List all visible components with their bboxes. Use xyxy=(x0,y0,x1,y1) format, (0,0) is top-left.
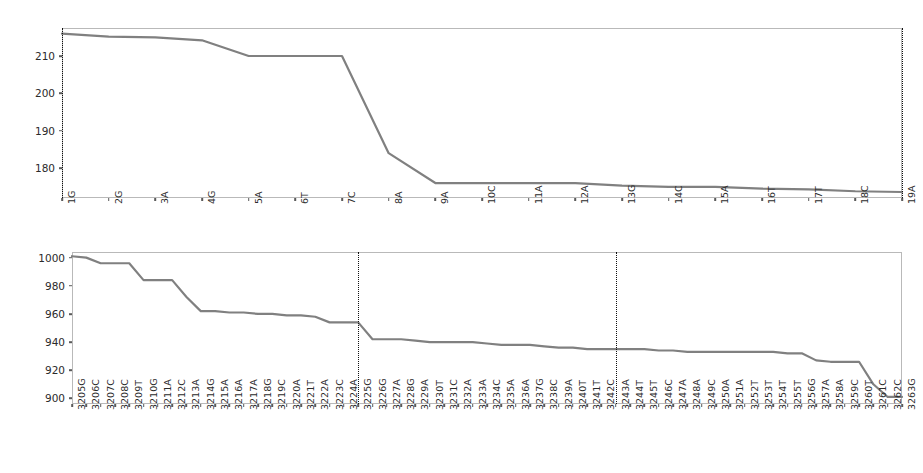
x-tick-mark xyxy=(715,198,717,201)
y-tick-mark xyxy=(69,398,72,400)
x-tick-mark xyxy=(128,404,130,407)
x-tick-label: 2G xyxy=(113,191,124,204)
x-tick-label: 3A xyxy=(159,191,170,204)
x-tick-mark xyxy=(343,404,345,407)
x-tick-mark xyxy=(501,404,503,407)
x-tick-mark xyxy=(372,404,374,407)
x-tick-mark xyxy=(873,404,875,407)
y-tick-label: 210 xyxy=(14,50,55,62)
x-tick-label: 10C xyxy=(486,185,497,204)
x-tick-mark xyxy=(715,404,717,407)
x-tick-mark xyxy=(357,404,359,407)
x-tick-mark xyxy=(86,404,88,407)
x-tick-label: 6T xyxy=(299,192,310,204)
x-tick-label: 11A xyxy=(533,185,544,204)
x-tick-mark xyxy=(658,404,660,407)
x-tick-mark xyxy=(644,404,646,407)
x-tick-mark xyxy=(472,404,474,407)
x-tick-mark xyxy=(186,404,188,407)
series-path xyxy=(62,34,902,192)
x-tick-label: 12A xyxy=(579,185,590,204)
x-tick-label: 3263G xyxy=(906,378,917,410)
x-tick-label: 7C xyxy=(346,191,357,204)
x-tick-mark xyxy=(155,198,157,201)
x-tick-label: 15A xyxy=(719,185,730,204)
x-tick-mark xyxy=(157,404,159,407)
vertical-marker-line xyxy=(616,252,617,404)
x-tick-mark xyxy=(143,404,145,407)
x-tick-mark xyxy=(386,404,388,407)
x-tick-mark xyxy=(429,404,431,407)
x-tick-mark xyxy=(761,198,763,201)
x-tick-mark xyxy=(214,404,216,407)
x-tick-mark xyxy=(248,198,250,201)
x-tick-label: 17T xyxy=(813,186,824,204)
bottom-series-line xyxy=(0,236,923,473)
bottom-chart-panel: 9009209409609801000 3205G3206C3207C3208C… xyxy=(0,236,923,473)
x-tick-mark xyxy=(558,404,560,407)
x-tick-mark xyxy=(529,404,531,407)
x-tick-mark xyxy=(801,404,803,407)
y-tick-mark xyxy=(69,257,72,259)
x-tick-mark xyxy=(855,198,857,201)
x-tick-mark xyxy=(887,404,889,407)
y-tick-label: 180 xyxy=(14,162,55,174)
x-tick-mark xyxy=(341,198,343,201)
x-tick-label: 9A xyxy=(439,191,450,204)
x-tick-mark xyxy=(729,404,731,407)
y-tick-mark xyxy=(69,285,72,287)
x-tick-label: 18C xyxy=(859,185,870,204)
x-tick-mark xyxy=(787,404,789,407)
x-tick-mark xyxy=(901,198,903,201)
x-tick-mark xyxy=(815,404,817,407)
x-tick-mark xyxy=(668,198,670,201)
x-tick-mark xyxy=(701,404,703,407)
vertical-marker-line xyxy=(62,28,63,198)
top-chart-panel: 180190200210 1G2G3A4G5A6T7C8A9A10C11A12A… xyxy=(0,0,923,236)
x-tick-label: 13G xyxy=(626,185,637,204)
y-tick-label: 940 xyxy=(24,336,65,348)
x-tick-mark xyxy=(272,404,274,407)
x-tick-mark xyxy=(314,404,316,407)
x-tick-mark xyxy=(672,404,674,407)
x-tick-mark xyxy=(758,404,760,407)
x-tick-mark xyxy=(601,404,603,407)
x-tick-label: 5A xyxy=(253,191,264,204)
top-series-line xyxy=(0,0,923,236)
y-tick-label: 900 xyxy=(24,392,65,404)
x-tick-mark xyxy=(572,404,574,407)
x-tick-mark xyxy=(400,404,402,407)
series-path xyxy=(72,256,902,397)
x-tick-mark xyxy=(543,404,545,407)
x-tick-mark xyxy=(229,404,231,407)
x-tick-mark xyxy=(515,404,517,407)
x-tick-mark xyxy=(114,404,116,407)
x-tick-mark xyxy=(830,404,832,407)
x-tick-mark xyxy=(621,198,623,201)
y-tick-label: 200 xyxy=(14,87,55,99)
y-tick-mark xyxy=(69,313,72,315)
x-tick-mark xyxy=(629,404,631,407)
vertical-marker-line xyxy=(358,252,359,404)
x-tick-mark xyxy=(329,404,331,407)
figure-canvas: 180190200210 1G2G3A4G5A6T7C8A9A10C11A12A… xyxy=(0,0,923,473)
x-tick-mark xyxy=(286,404,288,407)
x-tick-mark xyxy=(575,198,577,201)
x-tick-mark xyxy=(772,404,774,407)
y-tick-label: 1000 xyxy=(24,252,65,264)
x-tick-mark xyxy=(901,404,903,407)
x-tick-mark xyxy=(687,404,689,407)
x-tick-mark xyxy=(586,404,588,407)
x-tick-mark xyxy=(615,404,617,407)
x-tick-label: 4G xyxy=(206,191,217,204)
x-tick-mark xyxy=(415,404,417,407)
x-tick-mark xyxy=(100,404,102,407)
x-tick-mark xyxy=(858,404,860,407)
x-tick-mark xyxy=(200,404,202,407)
x-tick-mark xyxy=(171,404,173,407)
x-tick-mark xyxy=(808,198,810,201)
x-tick-mark xyxy=(744,404,746,407)
x-tick-label: 1G xyxy=(66,191,77,204)
y-tick-label: 920 xyxy=(24,364,65,376)
y-tick-label: 980 xyxy=(24,280,65,292)
